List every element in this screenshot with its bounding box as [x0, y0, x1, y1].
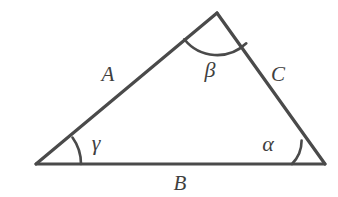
- triangle-diagram-svg: [0, 0, 338, 197]
- side-label-c: C: [271, 64, 285, 85]
- triangle-figure: A B C α β γ: [0, 0, 338, 197]
- angle-label-alpha: α: [262, 133, 274, 155]
- side-label-a: A: [102, 64, 115, 85]
- side-label-b: B: [174, 173, 187, 194]
- side-a-line: [36, 13, 217, 164]
- angle-label-gamma: γ: [92, 132, 101, 154]
- triangle-outline: [36, 13, 325, 164]
- angle-label-beta: β: [205, 59, 216, 81]
- gamma-angle-arc: [73, 138, 82, 165]
- alpha-angle-arc: [292, 141, 302, 164]
